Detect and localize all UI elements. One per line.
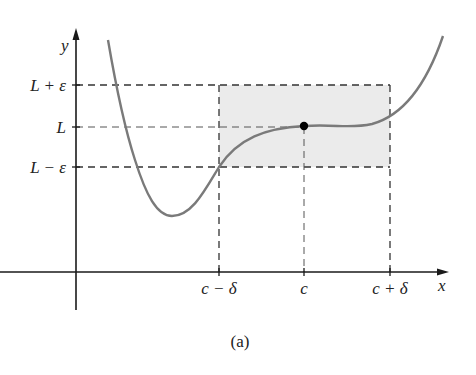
tick-label-l-plus-epsilon: L + ε xyxy=(29,76,66,95)
figure-caption: (a) xyxy=(231,332,250,351)
tick-label-c: c xyxy=(300,279,308,298)
tick-label-c-plus-delta: c + δ xyxy=(372,279,409,298)
tick-label-c-minus-delta: c − δ xyxy=(201,279,238,298)
x-axis-arrow-icon xyxy=(437,269,449,276)
limit-point xyxy=(300,122,308,130)
tick-label-l: L xyxy=(56,118,66,137)
x-axis-label: x xyxy=(437,276,446,295)
tick-label-l-minus-epsilon: L − ε xyxy=(29,158,66,177)
y-axis-arrow-icon xyxy=(73,28,80,40)
y-axis-label: y xyxy=(59,36,69,55)
epsilon-delta-diagram: y x L + ε L L − ε c − δ c c + δ (a) xyxy=(0,0,476,375)
